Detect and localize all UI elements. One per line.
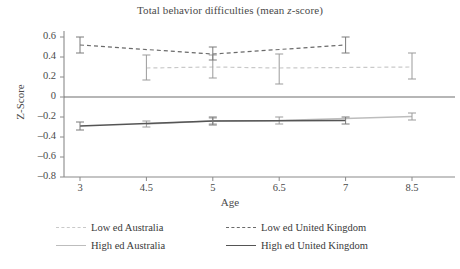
legend-item-label: High ed United Kingdom: [261, 240, 368, 251]
chart-legend: Low ed AustraliaLow ed United KingdomHig…: [0, 218, 460, 266]
y-tick-label: 0.6: [20, 30, 56, 41]
x-tick-label: 5: [198, 182, 228, 193]
x-tick-label: 3: [65, 182, 95, 193]
y-tick-label: 0: [20, 90, 56, 101]
y-tick-label: 0.2: [20, 70, 56, 81]
legend-item-label: Low ed United Kingdom: [261, 222, 366, 233]
legend-line-sample-icon: [56, 223, 86, 233]
legend-line-sample-icon: [226, 241, 256, 251]
y-tick-label: 0.4: [20, 50, 56, 61]
x-tick-label: 4.5: [131, 182, 161, 193]
legend-item[interactable]: Low ed United Kingdom: [226, 222, 366, 233]
y-tick-label: –0.8: [20, 170, 56, 181]
x-tick-label: 8.5: [397, 182, 427, 193]
legend-item-label: Low ed Australia: [91, 222, 163, 233]
legend-item[interactable]: Low ed Australia: [56, 222, 163, 233]
legend-line-sample-icon: [56, 241, 86, 251]
x-tick-label: 7: [331, 182, 361, 193]
legend-line-sample-icon: [226, 223, 256, 233]
x-tick-label: 6.5: [264, 182, 294, 193]
y-tick-label: –0.4: [20, 130, 56, 141]
y-tick-label: –0.6: [20, 150, 56, 161]
chart-figure: Total behavior difficulties (mean z-scor…: [0, 0, 460, 269]
legend-item[interactable]: High ed United Kingdom: [226, 240, 368, 251]
legend-item-label: High ed Australia: [91, 240, 165, 251]
legend-item[interactable]: High ed Australia: [56, 240, 165, 251]
y-tick-label: –0.2: [20, 110, 56, 121]
